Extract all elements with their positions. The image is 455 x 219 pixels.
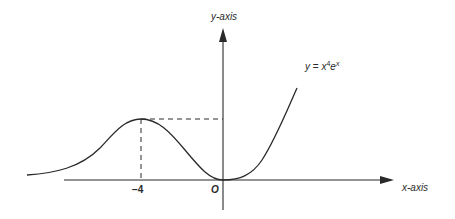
origin-label: O (211, 184, 219, 195)
graph-canvas (0, 0, 455, 219)
y-axis-label: y-axis (211, 11, 237, 22)
x-axis-arrowhead (380, 176, 394, 184)
y-axis-arrowhead (219, 28, 227, 42)
y-axis-label-text: y-axis (211, 11, 237, 22)
tick-label-minus4: −4 (132, 184, 143, 195)
function-curve (27, 88, 297, 180)
eq-y: y (305, 61, 310, 72)
eq-expx: x (336, 60, 340, 67)
x-axis-label: x-axis (402, 182, 428, 193)
curve-equation-label: y = x4ex (305, 60, 339, 72)
tick-minus4-text: −4 (132, 184, 143, 195)
eq-equals: = (313, 61, 319, 72)
origin-text: O (211, 184, 219, 195)
x-axis-label-text: x-axis (402, 182, 428, 193)
